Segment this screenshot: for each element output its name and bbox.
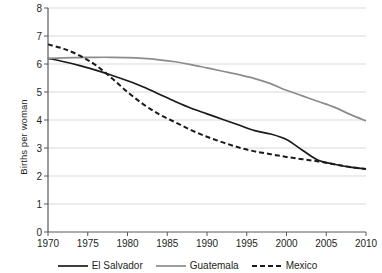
gridlines: [48, 8, 366, 204]
y-tick-label: 8: [26, 3, 42, 14]
x-tick-label: 1990: [187, 238, 227, 249]
y-tick-label: 3: [26, 143, 42, 154]
x-tick-label: 1995: [227, 238, 267, 249]
legend-label: Mexico: [286, 260, 318, 271]
legend-swatch-solid-line: [156, 262, 186, 270]
legend-item-el-salvador[interactable]: El Salvador: [58, 260, 143, 271]
legend-label: Guatemala: [190, 260, 239, 271]
legend-swatch-solid-line: [58, 262, 88, 270]
legend-label: El Salvador: [92, 260, 143, 271]
legend-item-guatemala[interactable]: Guatemala: [156, 260, 239, 271]
x-tick-label: 2005: [306, 238, 346, 249]
legend: El SalvadorGuatemalaMexico: [0, 260, 375, 271]
x-tick-label: 2000: [267, 238, 307, 249]
y-tick-label: 6: [26, 59, 42, 70]
y-tick-label: 7: [26, 31, 42, 42]
series-line-guatemala: [48, 57, 366, 121]
x-tick-label: 1985: [147, 238, 187, 249]
y-tick-label: 5: [26, 87, 42, 98]
y-tick-label: 4: [26, 115, 42, 126]
y-tick-label: 2: [26, 171, 42, 182]
x-tick-label: 1980: [108, 238, 148, 249]
x-tick-label: 1975: [68, 238, 108, 249]
y-tick-label: 1: [26, 199, 42, 210]
x-tick-label: 1970: [28, 238, 68, 249]
y-tick-label: 0: [26, 227, 42, 238]
x-tick-label: 2010: [346, 238, 382, 249]
series-line-el-salvador: [48, 58, 366, 169]
legend-swatch-dashed-line: [252, 262, 282, 270]
x-axis-tick-marks: [48, 232, 366, 236]
legend-item-mexico[interactable]: Mexico: [252, 260, 318, 271]
data-series-layer: [48, 44, 366, 169]
series-line-mexico: [48, 44, 366, 169]
